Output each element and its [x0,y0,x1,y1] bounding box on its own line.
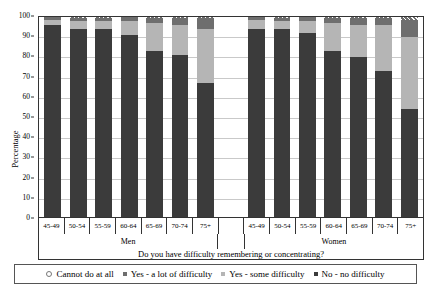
x-axis-cell: 70-74 [167,218,193,234]
bar-segment-none [172,55,189,217]
bar-segment-some [146,23,163,51]
bar-segment-some [299,21,316,33]
legend-item-none[interactable]: No - no difficulty [314,269,385,279]
y-axis-tick-label: 40 [23,133,31,141]
x-axis-cell: 55-59 [296,218,322,234]
x-axis-question-label: Do you have difficulty remembering or co… [38,249,424,259]
bar-segment-none [95,29,112,217]
x-axis-cell: 75+ [398,218,423,234]
bar-segment-some [197,29,214,83]
x-axis-cell-spacer [219,218,245,234]
y-axis-tick-label: 50 [23,113,31,121]
y-axis-tick [31,137,34,138]
stacked-bar[interactable] [197,17,214,217]
stacked-bar[interactable] [146,17,163,217]
x-axis-cell: 60-64 [116,218,142,234]
x-axis-cell: 50-54 [270,218,296,234]
y-axis-labels: 1009080706050403020100 [0,16,34,218]
legend-swatch-alot-icon [123,272,127,276]
x-axis-cell: 45-49 [244,218,270,234]
bar-slot [142,17,167,217]
x-axis-cell: 75+ [193,218,219,234]
bar-segment-none [375,71,392,217]
bar-segment-some [350,25,367,57]
bar-segment-none [248,29,265,217]
stacked-bar[interactable] [172,17,189,217]
bar-segment-some [274,21,291,29]
chart-figure: Percentage 1009080706050403020100 45-495… [0,0,431,298]
bar-slot [167,17,192,217]
bar-segment-some [248,20,265,29]
legend-item-some[interactable]: Yes - some difficulty [221,269,304,279]
group-label: Men [38,234,218,249]
bar-slot [65,17,90,217]
bar-slot [116,17,141,217]
y-axis-tick-label: 80 [23,53,31,61]
bar-slot [269,17,294,217]
bar-slot [346,17,371,217]
bar-slot [40,17,65,217]
bar-segment-some [70,21,87,29]
bar-series-container [39,17,423,217]
y-axis-tick-label: 20 [23,174,31,182]
stacked-bar[interactable] [95,17,112,217]
bar-segment-none [70,29,87,217]
legend-label: Yes - a lot of difficulty [131,269,213,279]
plot-area [38,16,424,218]
stacked-bar[interactable] [401,17,418,217]
stacked-bar[interactable] [274,17,291,217]
bar-slot [371,17,396,217]
bar-segment-alot [401,20,418,37]
bar-segment-alot [197,18,214,29]
bar-slot-spacer [218,17,243,217]
legend-label: Cannot do at all [56,269,113,279]
stacked-bar[interactable] [248,17,265,217]
bar-segment-none [44,25,61,217]
legend-swatch-cannot-icon [46,271,52,277]
bar-segment-some [95,21,112,29]
bar-segment-none [274,29,291,217]
x-axis-cell: 50-54 [65,218,91,234]
chart-legend: Cannot do at allYes - a lot of difficult… [14,264,417,284]
x-axis-cell: 65-69 [347,218,373,234]
bar-segment-some [172,25,189,55]
y-axis-tick [31,76,34,77]
y-axis-tick-label: 10 [23,194,31,202]
bar-slot [295,17,320,217]
bar-segment-none [197,83,214,217]
bar-slot [193,17,218,217]
y-axis-tick-label: 70 [23,73,31,81]
y-axis-tick [31,96,34,97]
y-axis-tick [31,177,34,178]
legend-item-cannot[interactable]: Cannot do at all [46,269,113,279]
y-axis-tick [31,36,34,37]
x-axis-cell: 65-69 [142,218,168,234]
y-axis-tick-label: 90 [23,32,31,40]
bar-slot [320,17,345,217]
bar-slot [244,17,269,217]
y-axis-tick [31,197,34,198]
bar-segment-alot [375,18,392,25]
y-axis-tick-label: 0 [26,214,30,222]
bar-segment-some [401,37,418,109]
stacked-bar[interactable] [299,17,316,217]
legend-item-alot[interactable]: Yes - a lot of difficulty [123,269,213,279]
x-axis-category-labels: 45-4950-5455-5960-6465-6970-7475+45-4950… [38,218,424,234]
x-axis-cell: 45-49 [39,218,65,234]
bar-segment-none [324,51,341,217]
stacked-bar[interactable] [44,17,61,217]
bar-segment-none [350,57,367,217]
stacked-bar[interactable] [375,17,392,217]
stacked-bar[interactable] [350,17,367,217]
stacked-bar[interactable] [70,17,87,217]
legend-swatch-some-icon [221,272,225,276]
stacked-bar[interactable] [121,17,138,217]
stacked-bar[interactable] [324,17,341,217]
bar-segment-none [121,35,138,217]
y-axis-tick-label: 60 [23,93,31,101]
bar-segment-alot [172,18,189,25]
bar-segment-alot [350,18,367,25]
x-axis-group-labels: MenWomen [38,234,424,249]
y-axis-tick [31,16,34,17]
group-label: Women [244,234,424,249]
